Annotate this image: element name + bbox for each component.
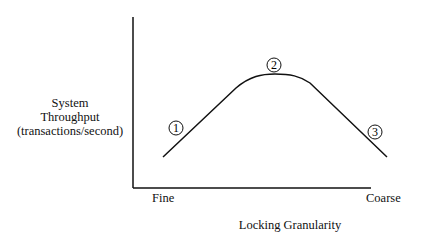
throughput-diagram: 1 2 3 (0, 0, 421, 241)
x-tick-fine: Fine (152, 191, 174, 206)
x-axis-label: Locking Granularity (200, 218, 380, 233)
marker-2-label: 2 (271, 58, 277, 72)
marker-3-label: 3 (372, 125, 378, 139)
marker-2: 2 (267, 58, 281, 72)
marker-3: 3 (368, 125, 382, 139)
x-tick-coarse: Coarse (366, 191, 401, 206)
marker-1: 1 (169, 121, 183, 135)
throughput-curve (163, 74, 387, 157)
marker-1-label: 1 (173, 121, 179, 135)
